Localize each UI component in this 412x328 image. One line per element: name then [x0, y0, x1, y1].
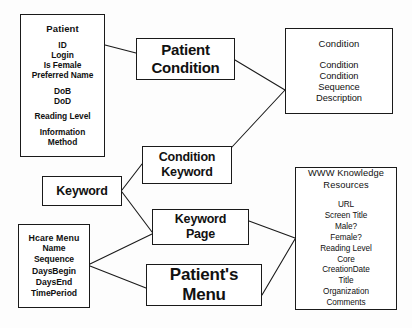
title-line: Resources — [323, 180, 368, 190]
edge-condition-keyword-to-condition — [232, 90, 285, 147]
node-patient[interactable]: Patient ID Login Is Female Preferred Nam… — [20, 14, 105, 157]
edge-patient-to-patient-condition — [105, 45, 136, 53]
node-condition-title: Condition — [318, 38, 359, 49]
attribute-row: DaysEnd — [31, 277, 77, 288]
label-line: Patient — [151, 41, 219, 59]
node-keyword-page[interactable]: Keyword Page — [152, 209, 249, 245]
label-line: Keyword — [56, 184, 107, 199]
edge-keyword-to-condition-keyword — [122, 164, 142, 190]
attribute-row: Condition — [316, 71, 362, 82]
label-line: Condition — [151, 59, 219, 77]
attribute-row: Comments — [320, 298, 372, 309]
title-line: WWW Knowledge — [308, 168, 384, 178]
node-www-knowledge-resources[interactable]: WWW Knowledge Resources URL Screen Title… — [295, 167, 397, 310]
node-www-knowledge-resources-attributes: URL Screen Title Male? Female? Reading L… — [320, 200, 372, 308]
node-patient-attributes: ID Login Is Female Preferred Name DoB Do… — [32, 41, 94, 148]
node-condition-keyword-label: Condition Keyword — [159, 150, 216, 180]
node-patients-menu[interactable]: Patient's Menu — [146, 264, 262, 306]
node-patients-menu-label: Patient's Menu — [170, 265, 238, 305]
node-condition-keyword[interactable]: Condition Keyword — [142, 146, 232, 184]
attribute-row: Condition — [316, 60, 362, 71]
label-line: Menu — [170, 285, 238, 305]
attribute-row: Screen Title — [320, 211, 372, 222]
node-patient-condition[interactable]: Patient Condition — [136, 38, 235, 80]
attribute-row: Core — [320, 255, 372, 266]
attribute-row: Reading Level — [320, 244, 372, 255]
attribute-row: Organization — [320, 287, 372, 298]
node-condition[interactable]: Condition Condition Condition Sequence D… — [285, 28, 393, 114]
node-patient-title: Patient — [46, 23, 78, 34]
edge-keyword-to-keyword-page — [122, 192, 152, 232]
edge-hcare-menu-to-patients-menu — [90, 266, 146, 288]
attribute-row: DaysBegin — [31, 266, 77, 277]
node-condition-attributes: Condition Condition Sequence Description — [316, 60, 362, 104]
attribute-row: CreationDate — [320, 265, 372, 276]
attribute-row: URL — [320, 200, 372, 211]
label-line: Condition — [159, 150, 216, 165]
attribute-row: TimePeriod — [31, 288, 77, 299]
diagram-canvas: Patient ID Login Is Female Preferred Nam… — [0, 0, 412, 328]
attribute-row: Sequence — [316, 82, 362, 93]
node-www-knowledge-resources-title: WWW Knowledge Resources — [296, 168, 396, 191]
attribute-row: Name — [31, 243, 77, 254]
node-hcare-menu-attributes: Name Sequence DaysBegin DaysEnd TimePeri… — [31, 243, 77, 299]
label-line: Keyword — [159, 165, 216, 180]
label-line: Patient's — [170, 265, 238, 285]
node-keyword[interactable]: Keyword — [42, 176, 122, 206]
node-hcare-menu[interactable]: Hcare Menu Name Sequence DaysBegin DaysE… — [18, 224, 90, 308]
node-keyword-label: Keyword — [56, 184, 107, 199]
attribute-row: Reading Level — [32, 112, 94, 122]
attribute-row: Female? — [320, 233, 372, 244]
attribute-row: Preferred Name — [32, 71, 94, 81]
attribute-row: Title — [320, 276, 372, 287]
edge-patients-menu-to-www — [262, 239, 295, 295]
edge-keyword-page-to-www — [249, 221, 295, 238]
attribute-row: Sequence — [31, 254, 77, 265]
node-patient-condition-label: Patient Condition — [151, 41, 219, 76]
attribute-row: Method — [32, 138, 94, 148]
edge-hcare-menu-to-keyword-page — [90, 234, 152, 264]
label-line: Keyword — [175, 212, 226, 227]
attribute-row: DoD — [32, 97, 94, 107]
label-line: Page — [175, 227, 226, 242]
attribute-row: Description — [316, 93, 362, 104]
edge-patient-condition-to-condition — [235, 60, 285, 90]
attribute-row: Male? — [320, 222, 372, 233]
node-hcare-menu-title: Hcare Menu — [29, 233, 80, 243]
node-keyword-page-label: Keyword Page — [175, 212, 226, 242]
